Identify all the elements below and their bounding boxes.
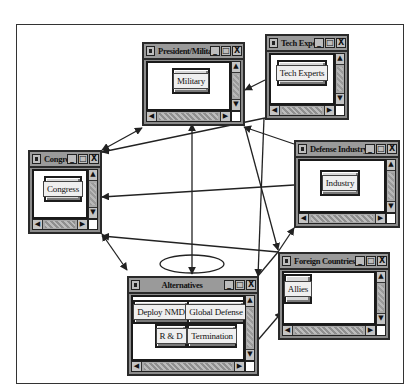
close-icon[interactable]: X (89, 154, 99, 164)
system-menu-icon[interactable] (146, 46, 155, 56)
scroll-track[interactable] (144, 363, 232, 370)
scroll-thumb[interactable] (90, 183, 96, 205)
scroll-right-icon[interactable]: ▶ (375, 214, 385, 223)
maximize-icon[interactable]: □ (221, 46, 231, 56)
node-r-and-d[interactable]: R & D (155, 324, 187, 348)
node-deploy-nmd[interactable]: Deploy NMD (133, 300, 189, 324)
scroll-right-icon[interactable]: ▶ (234, 362, 244, 371)
close-icon[interactable]: X (336, 38, 346, 48)
scroll-thumb[interactable] (247, 309, 253, 347)
size-grip[interactable] (386, 213, 396, 224)
scroll-down-icon[interactable]: ▼ (387, 201, 395, 212)
scroll-right-icon[interactable]: ▶ (324, 106, 334, 115)
horizontal-scrollbar[interactable]: ◀▶ (146, 111, 231, 122)
size-grip[interactable] (231, 111, 241, 122)
node-military[interactable]: Military (172, 68, 210, 94)
minimize-icon[interactable]: _ (355, 256, 365, 266)
size-grip[interactable] (88, 219, 98, 230)
scroll-down-icon[interactable]: ▼ (246, 349, 254, 360)
system-menu-icon[interactable] (131, 280, 140, 290)
node-industry[interactable]: Industry (320, 170, 360, 196)
minimize-icon[interactable]: _ (365, 144, 375, 154)
scroll-up-icon[interactable]: ▲ (377, 272, 385, 283)
horizontal-scrollbar[interactable]: ◀▶ (282, 325, 376, 336)
vertical-scrollbar[interactable]: ▲▼ (88, 169, 98, 219)
minimize-icon[interactable]: _ (67, 154, 77, 164)
scroll-left-icon[interactable]: ◀ (270, 106, 280, 115)
scroll-down-icon[interactable]: ▼ (232, 99, 240, 110)
scroll-right-icon[interactable]: ▶ (365, 326, 375, 335)
minimize-icon[interactable]: _ (224, 280, 234, 290)
node-congress[interactable]: Congress (44, 176, 82, 202)
scroll-track[interactable] (45, 221, 75, 228)
title-bar[interactable]: Tech Experts _ □ X (267, 36, 347, 52)
node-global-defense[interactable]: Global Defense (187, 300, 245, 324)
title-bar[interactable]: Alternatives _ □ X (129, 278, 257, 294)
size-grip[interactable] (376, 325, 386, 336)
scroll-down-icon[interactable]: ▼ (336, 93, 344, 104)
close-icon[interactable]: X (377, 256, 387, 266)
scroll-up-icon[interactable]: ▲ (246, 296, 254, 307)
title-bar[interactable]: Foreign Countries _ □ X (280, 254, 388, 270)
maximize-icon[interactable]: □ (235, 280, 245, 290)
maximize-icon[interactable]: □ (78, 154, 88, 164)
scroll-left-icon[interactable]: ◀ (299, 214, 309, 223)
scroll-up-icon[interactable]: ▲ (89, 170, 97, 181)
scroll-left-icon[interactable]: ◀ (283, 326, 293, 335)
scroll-left-icon[interactable]: ◀ (132, 362, 142, 371)
scroll-thumb[interactable] (233, 75, 239, 97)
node-tech-experts[interactable]: Tech Experts (277, 60, 327, 86)
horizontal-scrollbar[interactable]: ◀▶ (131, 361, 245, 372)
minimize-icon[interactable]: _ (314, 38, 324, 48)
scroll-track[interactable] (311, 215, 373, 222)
vertical-scrollbar[interactable]: ▲▼ (376, 271, 386, 325)
scroll-right-icon[interactable]: ▶ (77, 220, 87, 229)
scroll-up-icon[interactable]: ▲ (232, 62, 240, 73)
close-icon[interactable]: X (232, 46, 242, 56)
vertical-scrollbar[interactable]: ▲▼ (245, 295, 255, 361)
scroll-thumb[interactable] (378, 285, 384, 311)
scroll-track[interactable] (159, 113, 218, 120)
minimize-icon[interactable]: _ (210, 46, 220, 56)
size-grip[interactable] (335, 105, 345, 116)
maximize-icon[interactable]: □ (366, 256, 376, 266)
scroll-up-icon[interactable]: ▲ (387, 160, 395, 171)
system-menu-icon[interactable] (298, 144, 307, 154)
scroll-left-icon[interactable]: ◀ (147, 112, 157, 121)
horizontal-scrollbar[interactable]: ◀▶ (298, 213, 386, 224)
size-grip[interactable] (245, 361, 255, 372)
title-bar[interactable]: President/Military _ □ X (144, 44, 243, 60)
horizontal-scrollbar[interactable]: ◀▶ (269, 105, 335, 116)
window-title: President/Military (155, 46, 210, 56)
window-congress[interactable]: Congress _ □ X Congress ▲▼ ◀▶ (28, 150, 102, 234)
node-termination[interactable]: Termination (187, 324, 237, 348)
window-alternatives[interactable]: Alternatives _ □ X Deploy NMD Global Def… (127, 276, 259, 376)
scroll-track[interactable] (282, 107, 322, 114)
scroll-right-icon[interactable]: ▶ (220, 112, 230, 121)
vertical-scrollbar[interactable]: ▲▼ (231, 61, 241, 111)
node-allies[interactable]: Allies (284, 274, 312, 304)
system-menu-icon[interactable] (269, 38, 278, 48)
close-icon[interactable]: X (387, 144, 397, 154)
maximize-icon[interactable]: □ (325, 38, 335, 48)
horizontal-scrollbar[interactable]: ◀▶ (32, 219, 88, 230)
scroll-track[interactable] (295, 327, 363, 334)
scroll-left-icon[interactable]: ◀ (33, 220, 43, 229)
vertical-scrollbar[interactable]: ▲▼ (386, 159, 396, 213)
system-menu-icon[interactable] (282, 256, 291, 266)
system-menu-icon[interactable] (32, 154, 41, 164)
scroll-down-icon[interactable]: ▼ (89, 207, 97, 218)
scroll-down-icon[interactable]: ▼ (377, 313, 385, 324)
window-defense-industry[interactable]: Defense Industry _ □ X Industry ▲▼ ◀▶ (294, 140, 400, 228)
window-foreign-countries[interactable]: Foreign Countries _ □ X Allies ▲▼ ◀▶ (278, 252, 390, 340)
vertical-scrollbar[interactable]: ▲▼ (335, 53, 345, 105)
title-bar[interactable]: Defense Industry _ □ X (296, 142, 398, 158)
scroll-up-icon[interactable]: ▲ (336, 54, 344, 65)
maximize-icon[interactable]: □ (376, 144, 386, 154)
title-bar[interactable]: Congress _ □ X (30, 152, 100, 168)
window-tech-experts[interactable]: Tech Experts _ □ X Tech Experts ▲▼ ◀▶ (265, 34, 349, 120)
window-president-military[interactable]: President/Military _ □ X Military ▲▼ ◀▶ (142, 42, 245, 126)
scroll-thumb[interactable] (337, 67, 343, 91)
scroll-thumb[interactable] (388, 173, 394, 199)
close-icon[interactable]: X (246, 280, 256, 290)
